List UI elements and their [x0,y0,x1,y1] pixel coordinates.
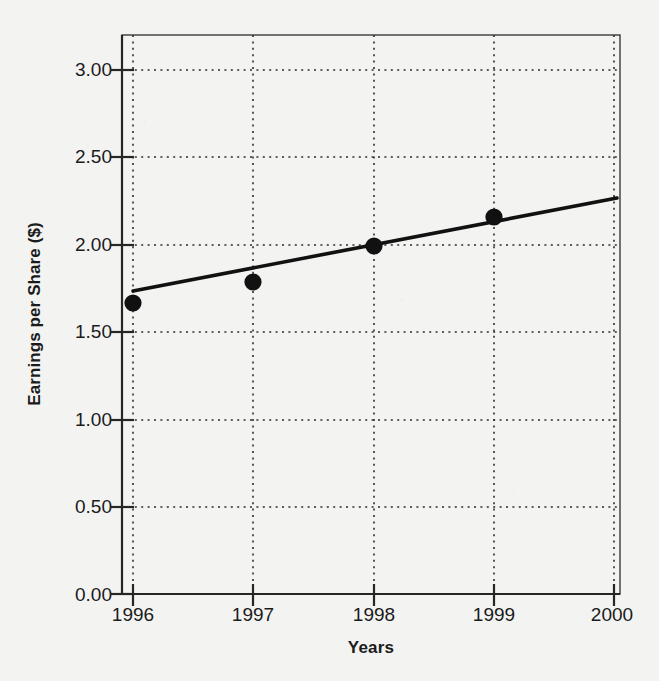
plot-frame [122,35,620,594]
vertical-gridlines [133,35,614,594]
chart-figure: Earnings per Share ($) Years 3.00 2.50 2… [0,0,659,681]
data-point-markers [124,208,502,311]
horizontal-gridlines [122,70,620,507]
data-point-1999 [485,208,502,225]
data-point-1996 [124,294,141,311]
data-point-1998 [365,237,382,254]
data-point-1997 [244,273,261,290]
plot-area [0,0,659,681]
